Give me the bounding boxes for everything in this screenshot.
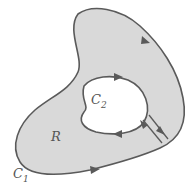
label-r: R xyxy=(50,129,61,144)
label-c2: C2 xyxy=(91,92,107,110)
region-diagram: C2 R C1 xyxy=(0,0,193,185)
